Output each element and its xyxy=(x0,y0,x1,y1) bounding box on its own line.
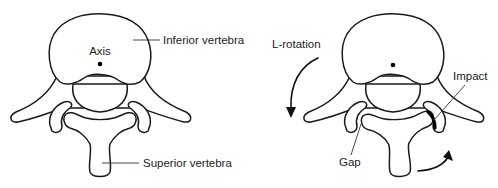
inferior-vertebra-label: Inferior vertebra xyxy=(163,34,245,46)
superior-vertebra-shape-rotated xyxy=(361,111,436,179)
l-rotation-label: L-rotation xyxy=(272,38,321,50)
inferior-vertebra-shape xyxy=(11,14,191,122)
rotated-panel: L-rotation Impact Gap xyxy=(272,14,488,178)
neutral-panel: Axis Inferior vertebra Superior vertebra xyxy=(11,14,245,177)
gap-label: Gap xyxy=(339,156,361,168)
axis-dot xyxy=(98,62,103,67)
inferior-vertebra-shape-rotated xyxy=(304,14,484,122)
counter-rotation-arrowhead-icon xyxy=(443,150,453,161)
impact-label: Impact xyxy=(453,70,488,82)
axis-dot-rotated xyxy=(391,63,396,68)
axis-label: Axis xyxy=(89,45,111,57)
l-rotation-arrow xyxy=(291,58,318,108)
superior-vertebra-shape xyxy=(64,113,136,177)
vertebra-rotation-diagram: Axis Inferior vertebra Superior vertebra… xyxy=(0,0,498,188)
l-rotation-arrowhead-icon xyxy=(286,107,296,118)
counter-rotation-arrow xyxy=(418,157,448,171)
superior-vertebra-label: Superior vertebra xyxy=(143,157,232,169)
